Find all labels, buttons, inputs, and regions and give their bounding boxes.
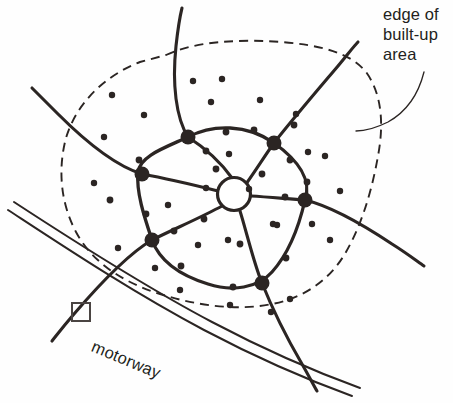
settlement-dot-23	[115, 245, 121, 251]
junction-south	[255, 276, 270, 291]
motorway-line-outer	[8, 210, 352, 396]
settlement-dot-8	[293, 111, 299, 117]
road-node-14	[282, 194, 289, 201]
road-node-10	[259, 171, 266, 178]
settlement-dot-24	[246, 186, 252, 192]
road-node-8	[143, 211, 150, 218]
settlement-dot-15	[226, 151, 232, 157]
road-node-11	[213, 166, 220, 173]
settlement-dot-4	[190, 78, 196, 84]
settlement-dot-9	[305, 149, 311, 155]
junction-east	[298, 193, 313, 208]
radial-road-south	[240, 211, 317, 391]
settlement-dot-16	[165, 202, 171, 208]
settlement-dot-2	[101, 134, 107, 140]
road-node-1	[223, 129, 230, 136]
settlement-dot-7	[208, 99, 214, 105]
settlement-dot-10	[322, 153, 328, 159]
road-node-0	[203, 148, 210, 155]
road-node-5	[283, 255, 290, 262]
settlement-dot-25	[268, 309, 274, 315]
town-centre-ring	[218, 178, 251, 211]
junction-north	[181, 130, 196, 145]
road-node-15	[237, 241, 244, 248]
road-node-17	[107, 197, 114, 204]
road-node-9	[136, 157, 143, 164]
settlement-dot-11	[327, 237, 333, 243]
label-leader-line	[356, 72, 424, 131]
motorway-line-inner	[14, 202, 360, 388]
road-node-12	[201, 216, 208, 223]
inner-ring-road	[138, 128, 307, 288]
settlement-dot-18	[225, 237, 231, 243]
settlement-dot-20	[177, 287, 183, 293]
junction-west	[135, 167, 150, 182]
settlement-dot-26	[203, 185, 209, 191]
edge-of-built-up-area-label: edge of built-up area	[383, 5, 439, 64]
road-node-3	[287, 157, 294, 164]
settlement-dot-17	[195, 242, 201, 248]
road-node-13	[171, 228, 178, 235]
settlement-dot-12	[309, 221, 315, 227]
junction-northeast	[267, 136, 282, 151]
settlement-dot-6	[257, 97, 263, 103]
settlement-dot-5	[219, 76, 225, 82]
road-node-4	[304, 179, 311, 186]
road-network-diagram: edge of built-up area motorway	[0, 0, 453, 403]
road-node-7	[178, 263, 185, 270]
settlement-dot-0	[109, 92, 115, 98]
motorway-road	[8, 202, 360, 396]
road-node-2	[251, 127, 258, 134]
settlement-dot-21	[227, 302, 233, 308]
settlement-dot-14	[270, 221, 276, 227]
road-node-6	[230, 284, 237, 291]
settlement-dot-1	[141, 112, 147, 118]
settlement-dot-3	[91, 180, 97, 186]
junction-southwest	[145, 233, 160, 248]
settlement-dot-27	[337, 188, 343, 194]
settlement-dot-22	[287, 296, 293, 302]
road-node-16	[291, 122, 298, 129]
radial-road-east	[251, 196, 424, 266]
radial-road-northeast	[246, 42, 358, 184]
settlement-dot-19	[152, 265, 158, 271]
